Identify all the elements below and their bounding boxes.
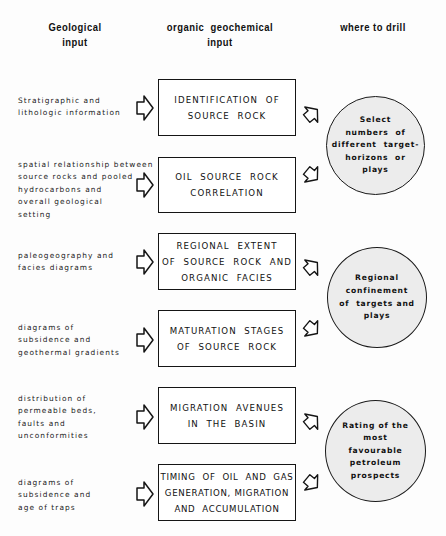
outcome-label: Rating of the most favourable petroleum … xyxy=(342,420,408,483)
block-arrow-right-icon xyxy=(136,404,154,430)
block-arrow-diagonal-icon xyxy=(299,161,325,188)
block-arrow-diagonal-icon xyxy=(299,469,325,496)
outcome-label: Regional confinement of targets and play… xyxy=(339,272,415,322)
header-geological-input: Geological input xyxy=(38,20,112,50)
block-arrow-diagonal-icon xyxy=(299,100,325,127)
geochemical-step-box: OIL SOURCE ROCK CORRELATION xyxy=(158,157,296,213)
step-label: MIGRATION AVENUES IN THE BASIN xyxy=(170,400,284,432)
step-label: REGIONAL EXTENT OF SOURCE ROCK AND ORGAN… xyxy=(162,238,292,286)
geological-input-2: spatial relationship between source rock… xyxy=(18,159,154,221)
geochemical-step-box: IDENTIFICATION OF SOURCE ROCK xyxy=(158,79,296,136)
geochemical-step-box: MIGRATION AVENUES IN THE BASIN xyxy=(158,387,296,444)
geological-input-5: distribution of permeable beds, faults a… xyxy=(18,393,97,443)
block-arrow-diagonal-icon xyxy=(299,407,325,434)
header-organic-geochemical-input: organic geochemical input xyxy=(163,20,278,50)
outcome-circle-regional-confinement: Regional confinement of targets and play… xyxy=(327,247,427,348)
outcome-circle-rating-prospects: Rating of the most favourable petroleum … xyxy=(325,400,426,502)
outcome-circle-select-targets: Select numbers of different target- hori… xyxy=(326,96,425,195)
block-arrow-diagonal-icon xyxy=(299,315,325,342)
geochemical-step-box: REGIONAL EXTENT OF SOURCE ROCK AND ORGAN… xyxy=(158,233,296,290)
block-arrow-right-icon xyxy=(136,327,154,353)
geochemical-step-box: TIMING OF OIL AND GAS GENERATION, MIGRAT… xyxy=(158,464,296,521)
header-where-to-drill: where to drill xyxy=(328,20,418,35)
step-label: TIMING OF OIL AND GAS GENERATION, MIGRAT… xyxy=(161,469,294,517)
block-arrow-right-icon xyxy=(136,95,154,121)
step-label: OIL SOURCE ROCK CORRELATION xyxy=(175,169,279,201)
geological-input-4: diagrams of subsidence and geothermal gr… xyxy=(18,322,120,359)
block-arrow-right-icon xyxy=(136,249,154,275)
geochemical-step-box: MATURATION STAGES OF SOURCE ROCK xyxy=(158,310,296,367)
outcome-label: Select numbers of different target- hori… xyxy=(332,114,419,177)
block-arrow-diagonal-icon xyxy=(299,253,325,280)
geological-input-1: Stratigraphic and lithologic information xyxy=(18,95,121,120)
step-label: MATURATION STAGES OF SOURCE ROCK xyxy=(170,323,285,355)
block-arrow-right-icon xyxy=(136,481,154,507)
geological-input-3: paleogeography and facies diagrams xyxy=(18,250,114,275)
geological-input-6: diagrams of subsidence and age of traps xyxy=(18,477,91,514)
step-label: IDENTIFICATION OF SOURCE ROCK xyxy=(174,92,279,124)
block-arrow-right-icon xyxy=(136,172,154,198)
